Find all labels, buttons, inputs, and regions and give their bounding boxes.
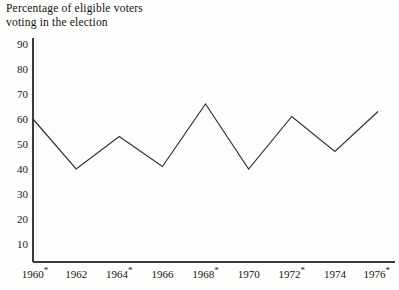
y-tick-70: 70 — [2, 89, 28, 100]
x-tick-1960-star: 1960* — [22, 269, 49, 280]
y-tick-80: 80 — [2, 64, 28, 75]
y-tick-50: 50 — [2, 139, 28, 150]
y-tick-90: 90 — [2, 39, 28, 50]
x-tick-1970: 1970 — [238, 269, 260, 280]
x-tick-1968-star: 1968* — [192, 269, 219, 280]
x-tick-1964-star: 1964* — [106, 269, 133, 280]
y-tick-10: 10 — [2, 239, 28, 250]
y-tick-40: 40 — [2, 164, 28, 175]
x-tick-1966: 1966 — [151, 269, 173, 280]
y-tick-60: 60 — [2, 114, 28, 125]
y-tick-20: 20 — [2, 214, 28, 225]
voter-turnout-line — [33, 104, 378, 169]
chart-container: Percentage of eligible voters voting in … — [0, 0, 399, 290]
plot-area — [0, 0, 399, 290]
x-tick-1974: 1974 — [324, 269, 346, 280]
x-tick-1962: 1962 — [65, 269, 87, 280]
x-tick-1976-star: 1976* — [363, 269, 390, 280]
x-tick-1972-star: 1972* — [279, 269, 306, 280]
y-tick-30: 30 — [2, 189, 28, 200]
